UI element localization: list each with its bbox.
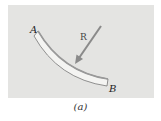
label-b: B bbox=[108, 83, 116, 94]
figure-caption: (a) bbox=[0, 101, 161, 112]
label-a: A bbox=[29, 24, 37, 35]
curved-beam bbox=[34, 31, 108, 86]
force-arrow-r bbox=[75, 26, 101, 64]
label-r: R bbox=[80, 32, 87, 42]
